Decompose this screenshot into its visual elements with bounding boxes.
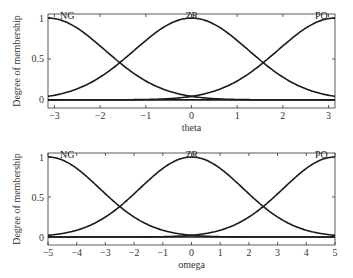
y-tick-label: 1 [39, 13, 44, 24]
plot-frame [48, 14, 335, 108]
curve-label-po: PO [315, 10, 328, 21]
curve-po [48, 18, 335, 100]
membership-functions-figure: −3−2−1012300.51 NG ZR PO theta Degree of… [0, 0, 353, 278]
x-tick-label: 3 [326, 110, 331, 121]
x-tick-label: 2 [280, 110, 285, 121]
curve-label-zr: ZR [186, 10, 199, 21]
curve-zr [48, 18, 335, 96]
axis-ticks: −5−4−3−2−101234500.51 [32, 152, 338, 259]
x-tick-label: 1 [218, 247, 223, 258]
x-tick-label: −1 [157, 247, 168, 258]
omega-membership-plot: −5−4−3−2−101234500.51 NG ZR PO omega Deg… [11, 149, 338, 270]
y-axis-label: Degree of membership [11, 153, 22, 245]
y-tick-label: 0 [39, 94, 44, 105]
y-tick-label: 1 [39, 152, 44, 163]
x-axis-label: theta [182, 122, 202, 133]
curve-zr [48, 157, 335, 235]
y-tick-label: 0 [39, 232, 44, 243]
curve-label-zr: ZR [186, 149, 199, 160]
y-tick-label: 0.5 [32, 53, 45, 64]
x-tick-label: 0 [189, 247, 194, 258]
x-tick-label: 5 [333, 247, 338, 258]
curve-label-ng: NG [60, 149, 74, 160]
x-tick-label: −3 [100, 247, 111, 258]
curve-ng [48, 18, 335, 100]
x-tick-label: −2 [95, 110, 106, 121]
x-tick-label: 1 [235, 110, 240, 121]
theta-membership-plot: −3−2−1012300.51 NG ZR PO theta Degree of… [11, 10, 335, 133]
x-tick-label: 0 [189, 110, 194, 121]
plot-frame [48, 153, 335, 245]
y-axis-label: Degree of membership [11, 15, 22, 107]
x-tick-label: 2 [246, 247, 251, 258]
curve-label-po: PO [315, 149, 328, 160]
membership-curves [48, 18, 335, 100]
x-tick-label: −1 [141, 110, 152, 121]
membership-curves [48, 157, 335, 237]
x-tick-label: −4 [71, 247, 82, 258]
x-tick-label: −2 [129, 247, 140, 258]
x-tick-label: −3 [49, 110, 60, 121]
curve-label-ng: NG [60, 10, 74, 21]
x-tick-label: −5 [43, 247, 54, 258]
x-tick-label: 4 [304, 247, 309, 258]
x-tick-label: 3 [275, 247, 280, 258]
y-tick-label: 0.5 [32, 192, 45, 203]
x-axis-label: omega [178, 259, 205, 270]
